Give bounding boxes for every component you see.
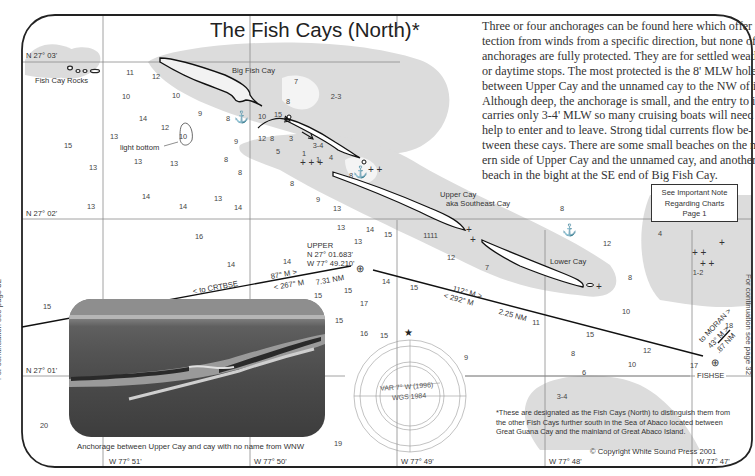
waypoint-icon[interactable]: ⊕ [356, 263, 364, 274]
sounding: 1-2 [693, 268, 704, 277]
sounding: 8 [224, 155, 228, 164]
sounding: 13 [214, 194, 222, 203]
anchor-icon: ⚓ [562, 223, 577, 237]
sounding: 12 [643, 346, 651, 355]
continuation-note-left[interactable]: For continuation see page 32 [0, 279, 3, 380]
waypoint-icon[interactable]: ⊕ [711, 357, 719, 368]
sounding: 16 [360, 329, 368, 338]
waypoint-upper-lat: N 27° 01.683' [307, 250, 353, 259]
sounding: 4 [329, 153, 333, 162]
sounding: 8 [238, 168, 242, 177]
chart-title: The Fish Cays (North)* [210, 18, 420, 42]
sounding: 13 [87, 202, 95, 211]
sounding: 14 [234, 203, 242, 212]
sounding: 9 [198, 109, 202, 118]
sounding: 13 [337, 223, 345, 232]
sounding: 13 [333, 204, 341, 213]
description-line: carries only 3-4' MLW so many cruising b… [482, 108, 743, 123]
sounding: 8 [286, 97, 290, 106]
note-line: Page 1 [652, 209, 737, 220]
waypoint-upper-name: UPPER [307, 241, 333, 250]
sounding: 1 [316, 155, 320, 164]
description-line: help to enter and to leave. Strong tidal… [482, 123, 743, 138]
sounding: 15 [344, 286, 352, 295]
sounding: 15 [43, 302, 51, 311]
sounding: 8 [290, 179, 294, 188]
sounding: 15 [384, 230, 392, 239]
longitude-label: W 77° 50' [254, 457, 287, 466]
sounding: 17 [360, 299, 368, 308]
sounding: 14 [139, 114, 147, 123]
copyright: © Copyright White Sound Press 2001 [590, 447, 716, 456]
sounding: 10 [172, 91, 180, 100]
sounding: 9 [316, 195, 320, 204]
longitude-label: W 77° 48' [549, 457, 582, 466]
sounding: 20 [40, 421, 48, 430]
sounding: 15 [274, 110, 282, 119]
rock-marker: + + [368, 164, 382, 175]
sounding: 13 [134, 157, 142, 166]
sounding: 1 [302, 149, 306, 158]
sounding: 18 [725, 321, 733, 330]
description-line: ern side of Upper Cay and the unnamed ca… [482, 153, 743, 168]
sounding: 14 [366, 225, 374, 234]
sounding: 11 [423, 231, 431, 240]
sounding: 15 [314, 291, 322, 300]
sounding: 9 [464, 353, 468, 362]
sounding: 13 [170, 159, 178, 168]
sounding: 14 [142, 192, 150, 201]
sounding: 4 [658, 229, 662, 238]
sounding: 14 [382, 277, 390, 286]
continuation-note-right[interactable]: For continuation see page 32 [744, 274, 753, 375]
aerial-photo [69, 299, 325, 437]
sounding: 8 [628, 273, 632, 282]
sounding: 10 [622, 307, 630, 316]
description-line: Although deep, the anchorage is small, a… [482, 94, 743, 109]
longitude-label: W 77° 51' [109, 457, 142, 466]
latitude-label: N 27° 01' [26, 366, 57, 375]
sounding: 3-4 [557, 392, 568, 401]
sounding: 11 [532, 318, 540, 327]
sounding: 12 [447, 253, 455, 262]
rock-marker: + [719, 237, 725, 248]
rock-marker: + [596, 281, 602, 292]
sounding: 11 [126, 68, 134, 77]
sounding: 15 [335, 316, 343, 325]
sounding: 8 [270, 134, 274, 143]
note-line: See Important Note [652, 188, 737, 199]
description-line: tween these cays. There are some small b… [482, 138, 743, 153]
sounding: 16 [195, 232, 203, 241]
description-line: tection from winds from a specific direc… [482, 34, 743, 49]
sounding: 8 [560, 204, 564, 213]
sounding: 6 [582, 368, 586, 377]
description-line: Three or four anchorages can be found he… [482, 19, 743, 34]
sounding: 3 [289, 134, 293, 143]
anchor-icon: ⚓ [234, 110, 249, 124]
description-line: beach in the bight at the SE end of Big … [482, 168, 743, 183]
sounding: 15 [64, 141, 72, 150]
anchor-icon: ⚓ [353, 165, 368, 179]
fish-cay-rocks-label: Fish Cay Rocks [35, 76, 88, 85]
sounding: 17 [690, 361, 698, 370]
sounding: 3-4 [313, 141, 324, 150]
chart-description: Three or four anchorages can be found he… [482, 19, 743, 183]
star-icon: ★ [404, 327, 413, 338]
footnote: *These are designated as the Fish Cays (… [496, 408, 736, 437]
sounding: 15 [586, 330, 594, 339]
description-line: anchorages are fully protected. They are… [482, 49, 743, 64]
sounding: 19 [334, 439, 342, 448]
sounding: 7 [294, 77, 298, 86]
upper-cay-aka-label: aka Southeast Cay [446, 199, 510, 208]
sounding: 5 [276, 147, 280, 156]
lower-cay-label: Lower Cay [550, 257, 586, 266]
sounding: 10 [179, 132, 187, 141]
longitude-label: W 77° 47' [697, 457, 730, 466]
upper-cay-label: Upper Cay [440, 190, 476, 199]
waypoint-fishse-name: FISHSE [695, 371, 726, 380]
note-line: Regarding Charts [652, 199, 737, 210]
sounding: 13 [89, 163, 97, 172]
sounding: 14 [179, 202, 187, 211]
sounding: 9 [234, 137, 238, 146]
sounding: 10 [122, 92, 130, 101]
sounding: 10 [628, 360, 636, 369]
